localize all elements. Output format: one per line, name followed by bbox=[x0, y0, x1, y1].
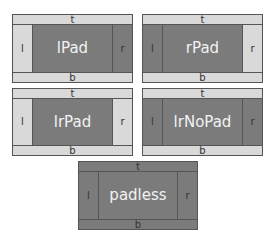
bottom-bar: b bbox=[13, 72, 132, 82]
bottom-bar: b bbox=[143, 145, 262, 155]
lrnopad-layout-box: tblrlrNoPad bbox=[142, 88, 263, 156]
lpad-layout-box: tblrlPad bbox=[12, 14, 133, 83]
center-label: lrPad bbox=[33, 99, 112, 145]
top-bar: t bbox=[13, 89, 132, 99]
top-bar: t bbox=[13, 15, 132, 25]
right-column: r bbox=[242, 99, 262, 145]
bottom-bar: b bbox=[13, 145, 132, 155]
bottom-bar: b bbox=[79, 219, 197, 229]
left-column: l bbox=[143, 25, 163, 72]
left-column: l bbox=[143, 99, 163, 145]
top-bar: t bbox=[143, 89, 262, 99]
lrpad-layout-box: tblrlrPad bbox=[12, 88, 133, 156]
center-label: lrNoPad bbox=[163, 99, 242, 145]
center-label: rPad bbox=[163, 25, 242, 72]
bottom-bar: b bbox=[143, 72, 262, 82]
left-column: l bbox=[79, 172, 99, 219]
right-column: r bbox=[242, 25, 262, 72]
center-label: padless bbox=[99, 172, 177, 219]
left-column: l bbox=[13, 99, 33, 145]
right-column: r bbox=[112, 99, 132, 145]
left-column: l bbox=[13, 25, 33, 72]
top-bar: t bbox=[143, 15, 262, 25]
right-column: r bbox=[112, 25, 132, 72]
center-label: lPad bbox=[33, 25, 112, 72]
rpad-layout-box: tblrrPad bbox=[142, 14, 263, 83]
top-bar: t bbox=[79, 162, 197, 172]
padless-layout-box: tblrpadless bbox=[78, 161, 198, 230]
right-column: r bbox=[177, 172, 197, 219]
